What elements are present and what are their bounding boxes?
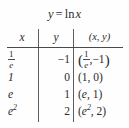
fraction-one-over-e: 1 e <box>8 50 15 70</box>
column-header-xy: (x, y) <box>76 28 123 46</box>
cell-xy: (e2, 2) <box>78 102 123 120</box>
cell-y: 2 <box>40 102 70 120</box>
values-table: x y (x, y) 1 e −1 (1e,−1) 1 0 (1, 0) e <box>6 28 123 123</box>
header-divider <box>7 47 123 48</box>
title-equals: = <box>54 7 65 21</box>
cell-x: 1 e <box>8 50 36 68</box>
table-row: e 1 (e, 1) <box>6 85 123 103</box>
cell-xy: (e, 1) <box>78 85 123 103</box>
cell-x: e2 <box>8 102 36 120</box>
fraction-one-over-e: 1e <box>83 50 90 70</box>
paren-close: ) <box>105 52 110 68</box>
cell-y: 0 <box>40 68 70 86</box>
cell-x: e <box>8 85 36 103</box>
exponent-power: 2 <box>13 103 17 112</box>
cell-xy: (1e,−1) <box>78 50 123 68</box>
math-table-figure: y=lnx x y (x, y) 1 e −1 (1e,−1) 1 0 <box>0 0 129 128</box>
table-row: 1 0 (1, 0) <box>6 68 123 86</box>
cell-x: 1 <box>8 68 36 86</box>
paren-close: ) <box>102 105 106 117</box>
table-row: 1 e −1 (1e,−1) <box>6 50 123 68</box>
figure-title: y=lnx <box>0 7 129 21</box>
cell-y: −1 <box>40 50 70 68</box>
cell-xy: (1, 0) <box>78 68 123 86</box>
title-lhs: y <box>48 7 54 21</box>
column-header-y: y <box>40 28 72 46</box>
table-row: e2 2 (e2, 2) <box>6 102 123 120</box>
title-function: ln <box>65 7 76 21</box>
title-argument: x <box>75 7 81 21</box>
column-header-x: x <box>6 28 38 46</box>
cell-y: 1 <box>40 85 70 103</box>
pair-y-value: −1 <box>92 53 104 65</box>
fraction-numerator: 1 <box>8 50 15 61</box>
fraction-numerator: 1 <box>83 50 90 61</box>
